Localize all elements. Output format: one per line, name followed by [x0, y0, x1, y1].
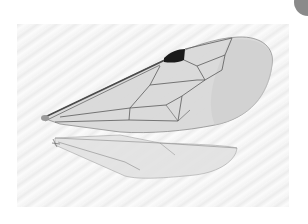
wing-illustration: [17, 24, 289, 207]
corner-circle: [294, 0, 308, 16]
stigma: [164, 49, 185, 63]
wing-photograph: [17, 24, 289, 207]
hindwing-membrane: [55, 135, 237, 178]
wing-base: [41, 115, 49, 121]
